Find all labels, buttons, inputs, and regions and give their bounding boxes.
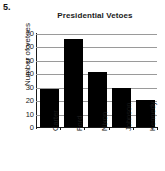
chart-screenshot: 5. Presidential Vetoes Number of vetoes … [0, 0, 165, 171]
x-category-label: Kennedy [149, 101, 157, 131]
x-tickmark [157, 127, 158, 130]
y-tick-label: 30 [12, 84, 34, 92]
gridline [36, 61, 157, 62]
x-tickmark [84, 127, 85, 130]
y-tick-label: 20 [12, 97, 34, 105]
y-tick-label: 40 [12, 70, 34, 78]
y-tick-label: 70 [12, 30, 34, 38]
y-tick-label: 10 [12, 111, 34, 119]
x-category-label: Carter [52, 110, 60, 131]
y-tick-label: 60 [12, 43, 34, 51]
x-category-label: Nixon [101, 112, 109, 131]
y-tick-label: 0 [12, 124, 34, 132]
x-category-label: Johnson [125, 103, 133, 131]
x-category-label: Ford [76, 116, 84, 131]
gridline [36, 47, 157, 48]
problem-number: 5. [3, 2, 11, 12]
chart-title: Presidential Vetoes [30, 11, 160, 21]
x-tickmark [60, 127, 61, 130]
y-axis-tick-labels: 010203040506070 [10, 34, 34, 128]
gridline [36, 34, 157, 35]
y-tick-label: 50 [12, 57, 34, 65]
